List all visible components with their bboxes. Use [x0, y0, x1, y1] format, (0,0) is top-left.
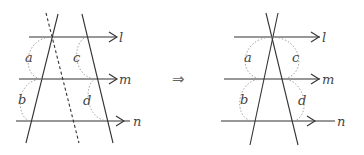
line-m-right — [224, 74, 320, 84]
dashed-parallel — [46, 13, 79, 143]
label-l-left: l — [119, 30, 123, 45]
label-a-right: a — [244, 50, 252, 65]
implies-arrow: ⇒ — [172, 70, 185, 88]
label-m-right: m — [322, 72, 334, 87]
label-c-right: c — [292, 50, 300, 65]
line-n-right — [221, 116, 335, 126]
left-panel: l m n a b c d — [16, 13, 141, 143]
label-d-left: d — [83, 93, 91, 108]
line-l-left — [29, 32, 117, 42]
line-l-right — [234, 32, 320, 42]
label-b-right: b — [240, 92, 248, 107]
label-m-left: m — [119, 72, 131, 87]
label-c-left: c — [73, 50, 81, 65]
parallel-lines-diagram: l m n a b c d ⇒ l m n a b c d — [0, 0, 364, 155]
right-panel: l m n a b c d — [221, 13, 345, 145]
label-a-left: a — [25, 50, 33, 65]
label-n-left: n — [133, 114, 141, 129]
label-d-right: d — [298, 93, 306, 108]
label-b-left: b — [18, 92, 26, 107]
label-l-right: l — [322, 30, 326, 45]
label-n-right: n — [337, 114, 345, 129]
